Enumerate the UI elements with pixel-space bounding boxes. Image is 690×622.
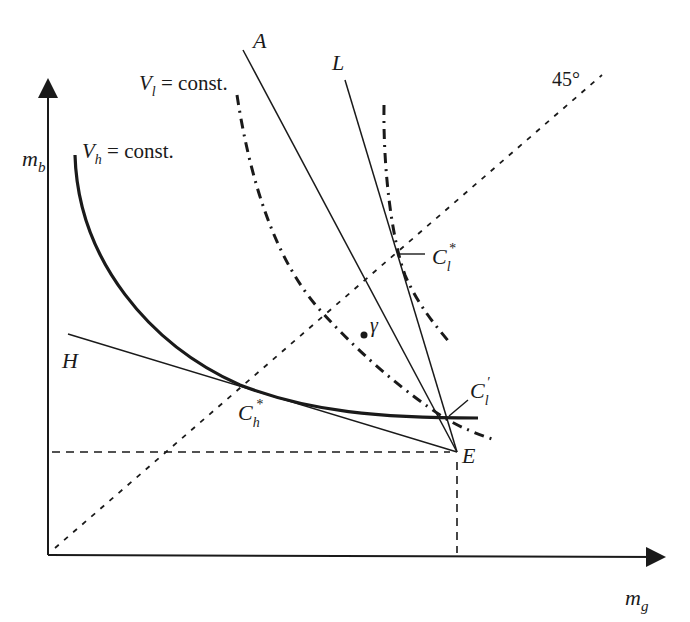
diagram-canvas: mb mg A L H 45° Vl = const. Vh = const. …: [0, 0, 690, 622]
gamma-point: [361, 332, 368, 339]
gamma-label: γ: [370, 314, 379, 337]
x-axis: [48, 555, 662, 557]
line-a: [243, 50, 457, 452]
cl-prime-leader: [449, 400, 468, 416]
ch-star-label: Ch*: [238, 397, 263, 430]
line-h-label: H: [61, 348, 79, 373]
45-degree-label: 45°: [552, 68, 580, 90]
x-axis-label: mg: [625, 585, 649, 614]
point-e-label: E: [461, 443, 476, 468]
y-axis-label: mb: [22, 146, 46, 175]
vl-indifference-curve: [237, 95, 495, 440]
line-l-label: L: [331, 50, 344, 75]
cl-prime-label: Cl′: [470, 375, 491, 408]
vl-indifference-curve-upper: [384, 105, 450, 343]
vh-curve-label: Vh = const.: [82, 139, 174, 167]
line-a-label: A: [251, 28, 267, 53]
cl-star-label: Cl*: [432, 241, 456, 274]
vl-curve-label: Vl = const.: [139, 71, 228, 99]
